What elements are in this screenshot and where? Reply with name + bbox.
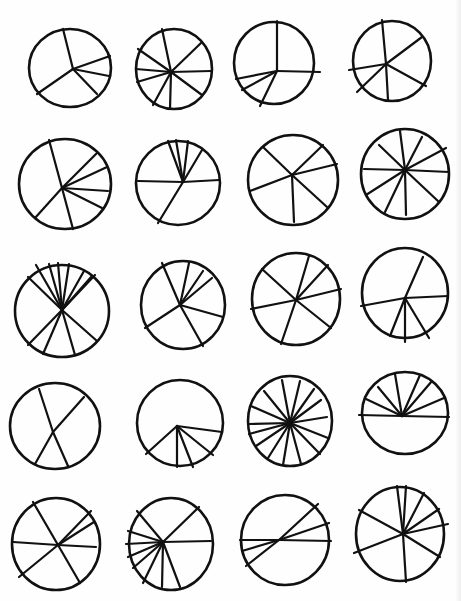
sector-divider-line <box>405 170 406 215</box>
sector-divider-line <box>262 269 296 300</box>
pie-circle-6 <box>136 140 220 225</box>
sector-divider-line <box>364 169 405 170</box>
sector-divider-line <box>386 64 388 100</box>
sector-divider-line <box>263 147 292 175</box>
sector-divider-line <box>62 153 97 188</box>
sector-divider-line <box>366 399 402 416</box>
pie-circle-11 <box>251 253 341 345</box>
sector-divider-line <box>296 289 341 300</box>
sector-divider-line <box>43 310 62 354</box>
sector-divider-line <box>249 423 290 424</box>
sector-divider-line <box>176 140 183 182</box>
sector-divider-line <box>379 145 405 170</box>
sector-divider-line <box>403 534 406 582</box>
sector-divider-line <box>163 542 180 587</box>
circle-outline <box>10 383 100 469</box>
sector-divider-line <box>397 486 403 534</box>
sector-divider-line <box>279 504 318 540</box>
sector-divider-line <box>405 170 449 172</box>
sector-divider-line <box>35 188 62 218</box>
pie-circles-canvas <box>0 0 461 601</box>
sector-divider-line <box>292 175 327 207</box>
sector-divider-line <box>28 310 62 345</box>
pie-circle-12 <box>361 248 448 342</box>
sector-divider-line <box>163 507 199 542</box>
sector-divider-line <box>171 43 201 72</box>
pie-circle-10 <box>141 261 225 349</box>
sector-divider-line <box>390 298 405 336</box>
pie-circle-13 <box>10 383 100 469</box>
sector-divider-line <box>138 181 183 182</box>
sector-divider-line <box>400 131 405 170</box>
sector-divider-line <box>58 545 80 583</box>
circle-outline <box>29 29 111 107</box>
pie-circle-8 <box>361 129 449 219</box>
sector-divider-line <box>163 541 211 542</box>
pie-circle-2 <box>136 29 212 109</box>
sector-divider-line <box>170 72 171 109</box>
sector-divider-line <box>281 300 296 344</box>
sector-divider-line <box>62 167 107 188</box>
sector-divider-line <box>279 540 331 541</box>
sector-divider-line <box>62 188 73 229</box>
pie-circle-14 <box>137 380 223 467</box>
sector-divider-line <box>361 298 405 306</box>
sketch-sheet <box>0 0 461 601</box>
sector-divider-line <box>382 20 386 64</box>
pie-circle-1 <box>29 29 111 107</box>
sector-divider-line <box>386 37 422 64</box>
sector-divider-line <box>162 263 180 305</box>
sector-divider-line <box>168 141 183 182</box>
pie-circle-18 <box>126 498 213 590</box>
sector-divider-line <box>39 389 53 432</box>
sector-divider-line <box>37 69 73 94</box>
sector-divider-line <box>405 170 439 202</box>
sector-divider-line <box>405 298 429 338</box>
pie-circle-19 <box>240 495 331 585</box>
sector-divider-line <box>158 182 183 223</box>
sector-divider-line <box>171 72 202 95</box>
sector-divider-line <box>292 175 294 222</box>
sector-divider-line <box>277 71 320 72</box>
sector-divider-line <box>296 300 331 328</box>
sector-divider-line <box>250 175 292 191</box>
sector-divider-line <box>73 56 110 69</box>
sector-divider-line <box>33 502 58 545</box>
pie-circle-9 <box>15 263 109 357</box>
sector-divider-line <box>35 432 53 464</box>
sector-divider-line <box>251 300 296 309</box>
sector-divider-line <box>359 415 402 416</box>
sector-divider-line <box>53 397 84 432</box>
sector-divider-line <box>49 140 62 188</box>
sector-divider-line <box>279 523 329 540</box>
sector-divider-line <box>53 432 68 466</box>
pie-circle-15 <box>248 376 332 466</box>
pie-circle-3 <box>234 21 320 106</box>
sector-divider-line <box>386 64 426 86</box>
sector-divider-line <box>354 534 403 553</box>
sector-divider-line <box>13 542 58 545</box>
paper-edge-shadow <box>455 0 461 601</box>
sector-divider-line <box>63 29 73 69</box>
sector-divider-line <box>171 71 211 72</box>
circle-outline <box>353 21 431 101</box>
sector-divider-line <box>162 542 163 587</box>
sector-divider-line <box>183 180 219 182</box>
sector-divider-line <box>403 534 440 557</box>
pie-circle-20 <box>354 486 448 582</box>
sector-divider-line <box>58 545 96 547</box>
sector-divider-line <box>405 257 423 298</box>
pie-circle-5 <box>19 139 111 229</box>
sector-divider-line <box>290 423 328 438</box>
sector-divider-line <box>359 510 403 534</box>
pie-circle-7 <box>248 135 338 225</box>
sector-divider-line <box>145 305 180 328</box>
circle-outline <box>234 22 314 104</box>
pie-circle-17 <box>12 498 100 590</box>
sector-divider-line <box>405 296 448 298</box>
pie-circle-4 <box>349 20 431 101</box>
sector-divider-line <box>402 416 449 417</box>
pie-circle-16 <box>359 372 449 454</box>
sector-divider-line <box>19 545 58 577</box>
sector-divider-line <box>133 542 163 568</box>
